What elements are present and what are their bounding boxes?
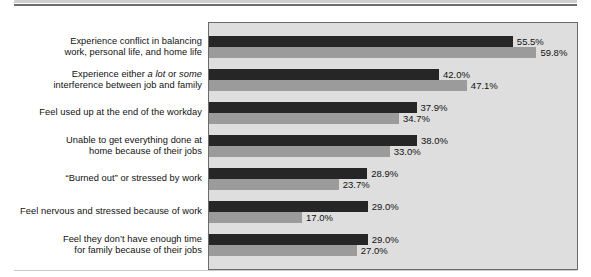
bar-value-label: 37.9% xyxy=(417,102,448,113)
bar-group: 29.0%27.0% xyxy=(209,234,579,256)
category-label: Unable to get everything done at home be… xyxy=(0,135,208,158)
bar-value-label: 23.7% xyxy=(339,179,370,190)
bar-series-1 xyxy=(209,102,417,113)
bar-value-label: 42.0% xyxy=(439,69,470,80)
chart-row: Experience conflict in balancing work, p… xyxy=(0,36,591,58)
chart-row: Feel nervous and stressed because of wor… xyxy=(0,201,591,223)
bar-value-label: 33.0% xyxy=(390,146,421,157)
bar-series-1 xyxy=(209,234,368,245)
chart-row: “Burned out” or stressed by work28.9%23.… xyxy=(0,168,591,190)
bar-value-label: 47.1% xyxy=(467,80,498,91)
bar-value-label: 59.8% xyxy=(536,47,567,58)
bar-group: 38.0%33.0% xyxy=(209,135,579,157)
bar-group: 55.5%59.8% xyxy=(209,36,579,58)
category-label: Experience either a lot or some interfer… xyxy=(0,69,208,92)
bar-group: 42.0%47.1% xyxy=(209,69,579,91)
bar-chart-figure: Experience conflict in balancing work, p… xyxy=(0,10,591,266)
bar-value-label: 29.0% xyxy=(368,234,399,245)
page-top-rule-ghost xyxy=(14,0,577,3)
bar-series-1 xyxy=(209,69,439,80)
category-label: “Burned out” or stressed by work xyxy=(0,173,208,184)
bar-series-1 xyxy=(209,135,417,146)
bar-value-label: 17.0% xyxy=(302,212,333,223)
bar-value-label: 55.5% xyxy=(513,36,544,47)
bar-value-label: 27.0% xyxy=(357,245,388,256)
chart-rows: Experience conflict in balancing work, p… xyxy=(0,22,591,270)
bar-series-1 xyxy=(209,36,513,47)
category-label: Experience conflict in balancing work, p… xyxy=(0,36,208,59)
bar-series-2 xyxy=(209,113,399,124)
bar-series-2 xyxy=(209,245,357,256)
bar-value-label: 29.0% xyxy=(368,201,399,212)
bar-series-1 xyxy=(209,201,368,212)
category-label: Feel they don’t have enough time for fam… xyxy=(0,234,208,257)
category-label: Feel used up at the end of the workday xyxy=(0,107,208,118)
bar-series-2 xyxy=(209,212,302,223)
page-bottom-rule xyxy=(14,270,577,271)
chart-row: Feel used up at the end of the workday37… xyxy=(0,102,591,124)
bar-group: 28.9%23.7% xyxy=(209,168,579,190)
bar-value-label: 28.9% xyxy=(367,168,398,179)
bar-series-2 xyxy=(209,80,467,91)
bar-series-2 xyxy=(209,47,536,58)
bar-series-2 xyxy=(209,146,390,157)
page-top-rule xyxy=(14,4,577,6)
bar-series-1 xyxy=(209,168,367,179)
chart-row: Unable to get everything done at home be… xyxy=(0,135,591,157)
bar-value-label: 38.0% xyxy=(417,135,448,146)
bar-group: 29.0%17.0% xyxy=(209,201,579,223)
category-label: Feel nervous and stressed because of wor… xyxy=(0,206,208,217)
bar-group: 37.9%34.7% xyxy=(209,102,579,124)
bar-value-label: 34.7% xyxy=(399,113,430,124)
bar-series-2 xyxy=(209,179,339,190)
chart-row: Experience either a lot or some interfer… xyxy=(0,69,591,91)
chart-row: Feel they don’t have enough time for fam… xyxy=(0,234,591,256)
